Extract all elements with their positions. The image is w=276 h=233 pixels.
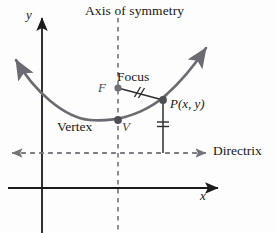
y-axis-label: y (26, 8, 32, 21)
vertex-point-dot (114, 116, 122, 124)
diagram-canvas (0, 0, 276, 233)
point-p-label: P(x, y) (170, 97, 205, 110)
segment-p-to-directrix (157, 100, 169, 153)
directrix-label: Directrix (213, 144, 262, 158)
segment-focus-to-p (118, 87, 163, 100)
focus-label: Focus (117, 70, 149, 84)
vertex-point-label: V (122, 120, 130, 133)
x-axis-label: x (200, 189, 206, 202)
focus-point-dot (114, 84, 121, 91)
parabola-diagram: Axis of symmetry Focus F P(x, y) Vertex … (0, 0, 276, 233)
focus-point-label: F (98, 81, 106, 94)
axis-of-symmetry-label: Axis of symmetry (85, 4, 184, 18)
vertex-label: Vertex (57, 120, 92, 134)
p-point-dot (159, 96, 167, 104)
coordinate-axes (8, 18, 218, 233)
